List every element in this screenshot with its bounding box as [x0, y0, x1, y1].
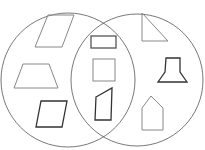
right-circle — [71, 14, 203, 146]
venn-diagram — [0, 0, 205, 150]
right-triangle-shape — [142, 13, 168, 41]
quadrilateral-shape — [95, 88, 112, 120]
parallelogram-shape — [35, 15, 74, 47]
rhombus-shape — [36, 101, 67, 127]
flared-shape — [158, 58, 187, 82]
house-pentagon-shape — [142, 96, 163, 130]
rectangle-shape — [91, 36, 116, 48]
trapezoid-shape — [14, 64, 58, 88]
square-shape — [93, 59, 115, 81]
